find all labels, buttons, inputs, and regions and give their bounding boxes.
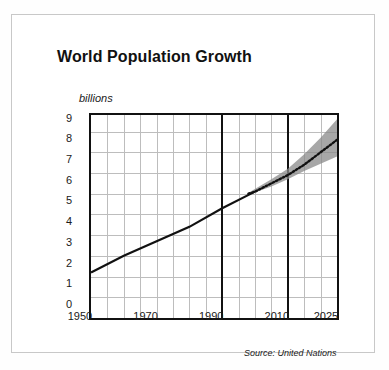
y-tick-label: 7 — [52, 153, 72, 165]
y-tick-label: 5 — [52, 194, 72, 206]
y-tick-label: 1 — [52, 277, 72, 289]
y-axis-unit-label: billions — [79, 92, 113, 104]
y-tick-label: 9 — [52, 112, 72, 124]
series-line-0 — [91, 192, 255, 273]
y-tick-label: 4 — [52, 215, 72, 227]
source-note: Source: United Nations — [244, 348, 337, 358]
y-tick-label: 6 — [52, 174, 72, 186]
plot-area — [89, 113, 339, 320]
y-tick-label: 2 — [52, 257, 72, 269]
x-tick-label: 1970 — [123, 310, 169, 322]
chart-title: World Population Growth — [57, 48, 252, 66]
plot-inner — [91, 115, 337, 318]
screenshot-root: World Population Growth billions 0123456… — [0, 0, 389, 370]
y-tick-label: 0 — [52, 298, 72, 310]
x-tick-label: 1950 — [57, 310, 103, 322]
x-tick-label: 1990 — [188, 310, 234, 322]
x-tick-label: 2025 — [303, 310, 349, 322]
y-tick-label: 8 — [52, 132, 72, 144]
chart-card: World Population Growth billions 0123456… — [11, 14, 375, 353]
y-tick-label: 3 — [52, 236, 72, 248]
chart-series-layer — [91, 115, 337, 318]
projection-uncertainty-band — [248, 119, 337, 195]
x-tick-label: 2010 — [254, 310, 300, 322]
